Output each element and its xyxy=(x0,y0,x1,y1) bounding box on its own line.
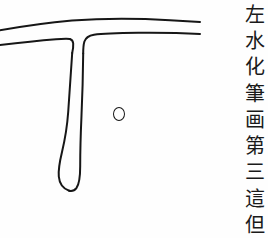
brush-stroke-outline-diagram xyxy=(0,0,268,238)
caption-char-5: 画 xyxy=(244,107,266,133)
caption-char-2: 水 xyxy=(244,28,266,54)
caption-char-9: 但 xyxy=(244,212,266,238)
caption-column: 左 水 化 筆 画 第 三 這 但 xyxy=(243,0,267,238)
vertical-stroke-left-contour xyxy=(59,53,73,191)
caption-char-3: 化 xyxy=(244,54,266,80)
page-canvas: 左 水 化 筆 画 第 三 這 但 xyxy=(0,0,268,238)
reference-dot-annotation xyxy=(113,107,125,121)
horizontal-stroke-bottom-contour-right xyxy=(83,33,200,54)
horizontal-stroke-bottom-contour-left xyxy=(0,39,70,46)
caption-char-6: 第 xyxy=(244,133,266,159)
caption-char-8: 這 xyxy=(244,186,266,212)
caption-char-1: 左 xyxy=(244,2,266,28)
caption-char-7: 三 xyxy=(244,159,266,185)
horizontal-stroke-top-contour xyxy=(0,19,200,31)
stroke-junction-notch xyxy=(70,39,73,53)
caption-char-4: 筆 xyxy=(244,81,266,107)
